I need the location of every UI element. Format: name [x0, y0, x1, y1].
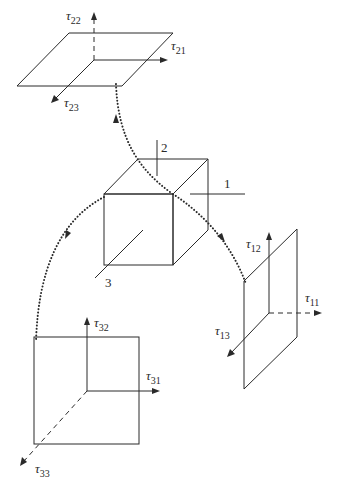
tau32-arrowhead: [84, 317, 90, 325]
connector-to-plane-1: [173, 194, 246, 284]
plane-normal-2: τ22 τ21 τ23: [17, 8, 186, 113]
tau22-arrowhead: [91, 12, 97, 20]
tau22-label: τ22: [66, 8, 81, 26]
axis-1-label: 1: [224, 176, 231, 191]
tau32-label: τ32: [94, 315, 109, 333]
diagram-canvas: τ22 τ21 τ23 2 1 3 τ12 τ11 τ13: [0, 0, 338, 484]
plane-normal-3: τ32 τ31 τ33: [20, 315, 161, 479]
connector-to-plane-2: [116, 84, 170, 192]
connector-1-arrowhead: [217, 233, 225, 242]
cube-top-face: [104, 159, 208, 194]
connectors: [36, 84, 246, 342]
connector-2-arrowhead: [113, 114, 119, 123]
cube-front-face: [104, 194, 173, 265]
stress-tensor-diagram: τ22 τ21 τ23 2 1 3 τ12 τ11 τ13: [0, 0, 338, 484]
tau12-arrowhead: [266, 232, 272, 240]
axis-3-line: [95, 230, 143, 278]
cube-element: 2 1 3: [95, 140, 245, 290]
tau13-label: τ13: [215, 323, 230, 341]
tau13-arrow-shaft: [231, 313, 269, 353]
tau21-label: τ21: [171, 38, 186, 56]
tau12-label: τ12: [246, 236, 261, 254]
tau33-label: τ33: [35, 461, 50, 479]
tau11-label: τ11: [305, 290, 319, 308]
tau31-label: τ31: [146, 368, 161, 386]
tau11-arrowhead: [314, 310, 322, 316]
connector-3-arrowhead: [65, 230, 71, 239]
axis-2-label: 2: [161, 140, 168, 155]
tau23-arrow-shaft: [55, 60, 94, 99]
tau21-arrowhead: [160, 57, 168, 63]
axis-3-label: 3: [105, 275, 112, 290]
tau31-arrowhead: [152, 388, 160, 394]
cube-right-face: [173, 159, 208, 265]
tau33-arrow-shaft: [24, 391, 87, 461]
tau23-label: τ23: [64, 95, 79, 113]
